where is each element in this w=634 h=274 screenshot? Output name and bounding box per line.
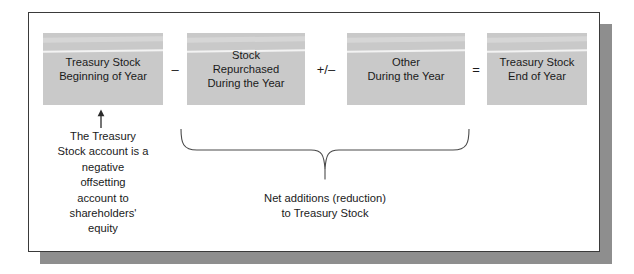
box-other-during-year-label: Other During the Year — [347, 33, 465, 105]
box-treasury-stock-beginning-label: Treasury Stock Beginning of Year — [43, 33, 163, 105]
box-stock-repurchased-label: Stock Repurchased During the Year — [187, 33, 305, 105]
treasury-stock-flow-diagram: Treasury Stock Beginning of Year – Stock… — [0, 0, 634, 274]
box-stock-repurchased: Stock Repurchased During the Year — [187, 33, 305, 105]
equation-row: Treasury Stock Beginning of Year – Stock… — [29, 33, 599, 105]
arrow-up-icon — [89, 109, 113, 129]
grouping-brace-icon — [177, 129, 473, 181]
box-treasury-stock-beginning: Treasury Stock Beginning of Year — [43, 33, 163, 105]
diagram-frame: Treasury Stock Beginning of Year – Stock… — [28, 12, 600, 252]
box-treasury-stock-end: Treasury Stock End of Year — [487, 33, 587, 105]
box-treasury-stock-end-label: Treasury Stock End of Year — [487, 33, 587, 105]
treasury-stock-annotation: The Treasury Stock account is a negative… — [37, 129, 169, 237]
net-additions-caption: Net additions (reduction) to Treasury St… — [225, 191, 425, 220]
operator-plus-minus: +/– — [305, 33, 347, 105]
operator-minus: – — [163, 33, 187, 105]
box-other-during-year: Other During the Year — [347, 33, 465, 105]
operator-equals: = — [465, 33, 487, 105]
